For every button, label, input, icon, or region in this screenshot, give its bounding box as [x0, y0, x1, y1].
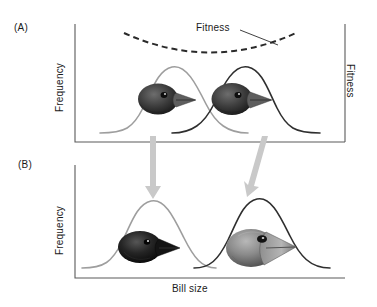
finch-large-bill-panel-b: [226, 229, 296, 267]
panel-b-axis-lines: [75, 165, 345, 278]
finch-small-bill-panel-b: [118, 231, 180, 263]
panel-b-plot: [0, 0, 377, 307]
figure-disruptive-selection: (A) Frequency Fitness Fitness: [0, 0, 377, 307]
